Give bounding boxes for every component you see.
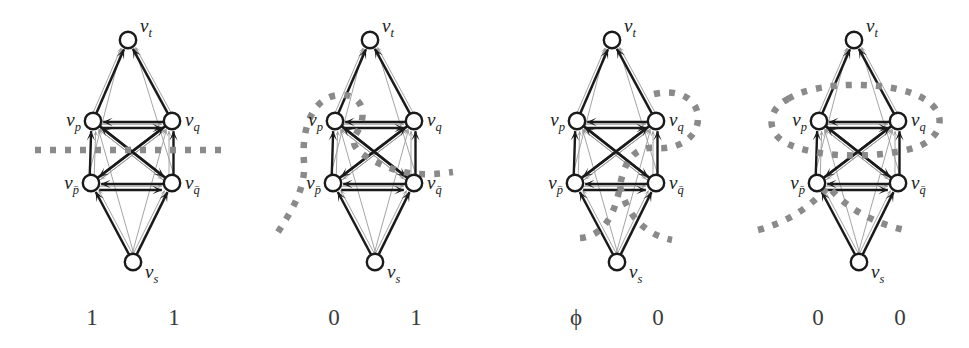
node-label: vp	[792, 109, 807, 134]
graph-edge	[329, 131, 337, 175]
graph-edge	[377, 47, 412, 112]
node-label: vq	[185, 109, 200, 134]
graph-edge	[825, 190, 859, 253]
edge-layer	[329, 47, 420, 255]
graph-edge	[379, 192, 410, 255]
graph-edge	[822, 49, 850, 114]
node-label: vq	[427, 109, 442, 134]
graph-edge	[822, 192, 856, 255]
graph-edge	[580, 49, 608, 114]
value-label-right: 1	[168, 305, 180, 330]
graph-edge	[376, 190, 407, 253]
panel-1: vtvpvqvp̄vq̄vs11	[0, 0, 242, 348]
value-label-left: ϕ	[570, 305, 582, 330]
panel-graph-3: vtvpvqvp̄vq̄vsϕ0	[484, 0, 726, 348]
graph-edge	[653, 131, 661, 175]
node-vqbar	[890, 175, 906, 191]
graph-edge	[87, 131, 95, 175]
graph-edge	[134, 190, 165, 253]
graph-edge	[375, 49, 410, 114]
graph-edge	[571, 131, 579, 175]
node-vt	[846, 32, 862, 48]
graph-edge	[859, 49, 894, 114]
node-vt	[604, 32, 620, 48]
graph-edge	[338, 192, 372, 255]
panel-graph-1: vtvpvqvp̄vq̄vs11	[0, 0, 242, 348]
node-vpbar	[809, 175, 825, 191]
node-vq	[890, 113, 906, 129]
node-vpbar	[83, 175, 99, 191]
node-label: vt	[382, 15, 394, 40]
node-label: vq̄	[911, 172, 926, 197]
graph-edge	[133, 49, 168, 114]
node-label: vs	[387, 261, 400, 286]
node-label: vp̄	[306, 172, 321, 197]
graph-edge	[618, 190, 649, 253]
graph-edge	[96, 192, 130, 255]
node-label: vt	[866, 15, 878, 40]
node-vp	[811, 113, 827, 129]
graph-edge	[583, 129, 650, 180]
node-vqbar	[648, 175, 664, 191]
node-label: vq	[669, 109, 684, 134]
node-label: vp	[550, 109, 565, 134]
node-vs	[609, 254, 625, 270]
node-vq	[648, 113, 664, 129]
node-vp	[569, 113, 585, 129]
panel-graph-2: vtvpvqvp̄vq̄vs01	[242, 0, 484, 348]
graph-edge	[99, 129, 166, 180]
panel-graph-4: vtvpvqvp̄vq̄vs00	[726, 0, 968, 348]
node-label: vp̄	[548, 172, 563, 197]
value-label-left: 0	[328, 305, 340, 330]
panel-2: vtvpvqvp̄vq̄vs01	[242, 0, 484, 348]
node-vp	[327, 113, 343, 129]
graph-edge	[96, 49, 124, 114]
panel-4: vtvpvqvp̄vq̄vs00	[726, 0, 968, 348]
graph-edge	[341, 190, 375, 253]
node-vt	[362, 32, 378, 48]
node-label: vs	[871, 261, 884, 286]
node-vs	[125, 254, 141, 270]
value-label-left: 1	[86, 305, 98, 330]
node-label: vq̄	[185, 172, 200, 197]
node-vt	[120, 32, 136, 48]
value-label-right: 0	[894, 305, 906, 330]
graph-edge	[411, 131, 419, 175]
node-vpbar	[567, 175, 583, 191]
node-label: vq	[911, 109, 926, 134]
graph-edge	[619, 47, 654, 112]
node-vq	[164, 113, 180, 129]
graph-edge	[863, 192, 894, 255]
graph-edge	[135, 47, 170, 112]
node-label: vt	[140, 15, 152, 40]
graph-edge	[137, 192, 168, 255]
graph-edge	[617, 49, 652, 114]
graph-edge	[99, 129, 164, 180]
node-label: vp̄	[64, 172, 79, 197]
node-vpbar	[325, 175, 341, 191]
value-label-left: 0	[812, 305, 824, 330]
panel-3: vtvpvqvp̄vq̄vsϕ0	[484, 0, 726, 348]
graph-edge	[341, 129, 406, 180]
node-label: vq̄	[669, 172, 684, 197]
node-label: vp̄	[790, 172, 805, 197]
node-label: vt	[624, 15, 636, 40]
node-vs	[367, 254, 383, 270]
node-vqbar	[406, 175, 422, 191]
figure-panels-container: vtvpvqvp̄vq̄vs11vtvpvqvp̄vq̄vs01vtvpvqvp…	[0, 0, 969, 348]
node-vq	[406, 113, 422, 129]
value-label-right: 0	[652, 305, 664, 330]
node-label: vs	[629, 261, 642, 286]
value-label-right: 1	[410, 305, 422, 330]
node-label: vp	[66, 109, 81, 134]
edge-layer	[813, 47, 904, 255]
node-vqbar	[164, 175, 180, 191]
node-vs	[851, 254, 867, 270]
graph-edge	[341, 129, 408, 180]
node-label: vs	[145, 261, 158, 286]
node-label: vp	[308, 109, 323, 134]
graph-edge	[99, 190, 133, 253]
graph-edge	[861, 47, 896, 112]
node-vp	[85, 113, 101, 129]
